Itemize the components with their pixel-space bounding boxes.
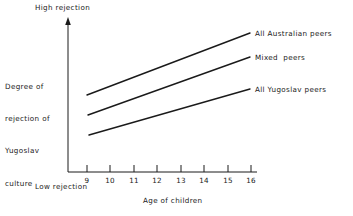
x-tick-label-16: 16 <box>243 176 259 185</box>
x-tick-label-12: 12 <box>149 176 165 185</box>
series-label-all-yugoslav-peers: All Yugoslav peers <box>255 85 326 94</box>
x-tick-label-13: 13 <box>173 176 189 185</box>
x-axis-title: Age of children <box>143 196 203 207</box>
series-label-all-australian-peers: All Australian peers <box>255 29 332 38</box>
x-tick-label-11: 11 <box>126 176 142 185</box>
y-axis-title-line-4: culture <box>5 179 50 190</box>
x-axis-ticks <box>87 165 251 172</box>
series-label-mixed-peers: Mixed peers <box>255 53 305 62</box>
x-axis <box>68 165 257 172</box>
x-tick-label-15: 15 <box>220 176 236 185</box>
y-axis <box>65 17 71 172</box>
x-tick-label-14: 14 <box>196 176 212 185</box>
y-axis-title-line-2: rejection of <box>5 114 50 125</box>
y-axis-top-label: High rejection <box>35 3 90 14</box>
y-axis-title-line-1: Degree of <box>5 82 50 93</box>
x-tick-label-10: 10 <box>102 176 118 185</box>
y-axis-title: Degree of rejection of Yugoslav culture <box>5 60 50 211</box>
line-chart: High rejection Low rejection Age of chil… <box>0 0 353 216</box>
x-tick-label-9: 9 <box>79 176 95 185</box>
series-line-all-yugoslav-peers <box>89 89 250 135</box>
y-axis-title-line-3: Yugoslav <box>5 146 50 157</box>
